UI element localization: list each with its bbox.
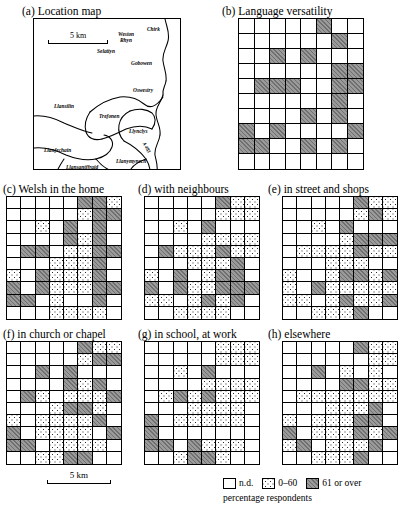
grid-cell — [301, 124, 317, 139]
grid-cell — [383, 295, 397, 307]
grid-cell — [301, 79, 317, 94]
grid-cell — [255, 64, 271, 79]
grid-cell — [174, 366, 188, 378]
grid-cell — [317, 124, 333, 139]
grid-cell — [354, 221, 368, 233]
grid-cell — [216, 221, 230, 233]
grid-cell — [64, 282, 78, 294]
grid-cell — [93, 197, 107, 209]
grid-cell — [270, 34, 286, 49]
grid-cell — [145, 270, 159, 282]
grid-cell — [270, 109, 286, 124]
grid-cell — [340, 427, 354, 439]
grid-cell — [159, 246, 173, 258]
grid-cell — [78, 391, 92, 403]
grid-cell — [239, 94, 255, 109]
grid-cell — [159, 270, 173, 282]
grid-cell — [174, 415, 188, 427]
grid-cell — [326, 270, 340, 282]
grid-cell — [283, 415, 297, 427]
grid-cell — [36, 427, 50, 439]
grid-cell — [255, 49, 271, 64]
grid-cell — [332, 109, 348, 124]
grid-cell — [231, 452, 245, 464]
grid-cell — [216, 307, 230, 319]
grid-cell — [21, 415, 35, 427]
grid-cell — [369, 415, 383, 427]
grid-cell — [188, 427, 202, 439]
grid-cell — [36, 270, 50, 282]
grid-cell — [354, 307, 368, 319]
grid-cell — [312, 295, 326, 307]
grid-cell — [107, 403, 121, 415]
grid-cell — [36, 452, 50, 464]
grid-cell — [326, 234, 340, 246]
grid-cell — [50, 427, 64, 439]
grid-cell — [231, 209, 245, 221]
grid-cell — [297, 415, 311, 427]
figure-scale-bar-label: 5 km — [47, 471, 111, 480]
legend-items: n.d. 0–60 61 or over — [223, 477, 367, 489]
grid-cell — [21, 440, 35, 452]
map-label-llanymynech: Llanymynech — [116, 158, 146, 164]
grid-cell — [283, 209, 297, 221]
grid-cell — [317, 154, 333, 169]
legend-swatch-low — [262, 478, 275, 489]
grid-cell — [159, 366, 173, 378]
grid-cell — [297, 246, 311, 258]
grid-cell — [245, 209, 259, 221]
grid-cell — [7, 209, 21, 221]
grid-cell — [270, 139, 286, 154]
grid-cell — [216, 209, 230, 221]
grid-cell — [286, 34, 302, 49]
grid-cell — [369, 427, 383, 439]
grid-cell — [107, 282, 121, 294]
grid-cell — [159, 221, 173, 233]
grid-cell — [245, 427, 259, 439]
grid-cell — [21, 427, 35, 439]
grid-cell — [107, 270, 121, 282]
map-label-trefonen: Trefonen — [99, 113, 119, 119]
grid-cell — [188, 440, 202, 452]
grid-cell — [78, 403, 92, 415]
grid-cell — [21, 452, 35, 464]
grid-cell — [78, 440, 92, 452]
grid-cell — [383, 258, 397, 270]
grid-cell — [50, 379, 64, 391]
grid-cell — [107, 197, 121, 209]
grid-cell — [348, 34, 364, 49]
grid-cell — [245, 415, 259, 427]
grid-cell — [283, 427, 297, 439]
grid-cell — [64, 403, 78, 415]
grid-cell — [348, 154, 364, 169]
grid-cell — [255, 79, 271, 94]
grid-cell — [312, 440, 326, 452]
grid-cell — [332, 64, 348, 79]
grid-cell — [93, 391, 107, 403]
grid-cell — [239, 109, 255, 124]
grid-cell — [283, 452, 297, 464]
grid-cell — [93, 440, 107, 452]
grid-cell — [64, 221, 78, 233]
figure-canvas: (a) Location map — [0, 0, 402, 517]
grid-cell — [174, 307, 188, 319]
grid-cell — [301, 154, 317, 169]
grid-cell — [369, 295, 383, 307]
grid-cell — [297, 452, 311, 464]
grid-cell — [283, 282, 297, 294]
grid-cell — [239, 64, 255, 79]
grid-cell — [231, 234, 245, 246]
grid-cell — [231, 440, 245, 452]
grid-cell — [174, 282, 188, 294]
grid-cell — [317, 64, 333, 79]
grid-cell — [64, 246, 78, 258]
grid-cell — [326, 379, 340, 391]
grid-cell — [145, 366, 159, 378]
grid-cell — [159, 197, 173, 209]
grid-cell — [36, 295, 50, 307]
location-map-scale-bar: 5 km — [48, 31, 108, 44]
grid-cell — [216, 391, 230, 403]
grid-cell — [297, 258, 311, 270]
grid-cell — [50, 415, 64, 427]
grid-cell — [64, 270, 78, 282]
